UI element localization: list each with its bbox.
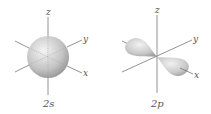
- z-axis-label: z: [154, 5, 160, 15]
- panel-2s: z y x 2s: [15, 7, 89, 109]
- x-axis-front: [67, 66, 82, 73]
- y-axis-back: [15, 65, 29, 72]
- p-orbital-lobe-negative: [125, 38, 157, 57]
- z-axis-label: z: [45, 7, 51, 17]
- y-axis-label: y: [82, 34, 89, 44]
- caption-2p: 2p: [150, 98, 164, 109]
- x-axis-label: x: [83, 68, 88, 78]
- orbital-diagram: z y x 2s z y x 2p: [0, 0, 211, 114]
- x-axis-back: [15, 41, 29, 48]
- p-orbital-lobe-positive: [157, 57, 189, 76]
- y-axis-front: [67, 40, 82, 47]
- x-axis-label: x: [194, 70, 199, 80]
- caption-2s: 2s: [42, 98, 55, 109]
- panel-2p: z y x 2p: [122, 5, 199, 109]
- y-axis-label: y: [192, 34, 199, 44]
